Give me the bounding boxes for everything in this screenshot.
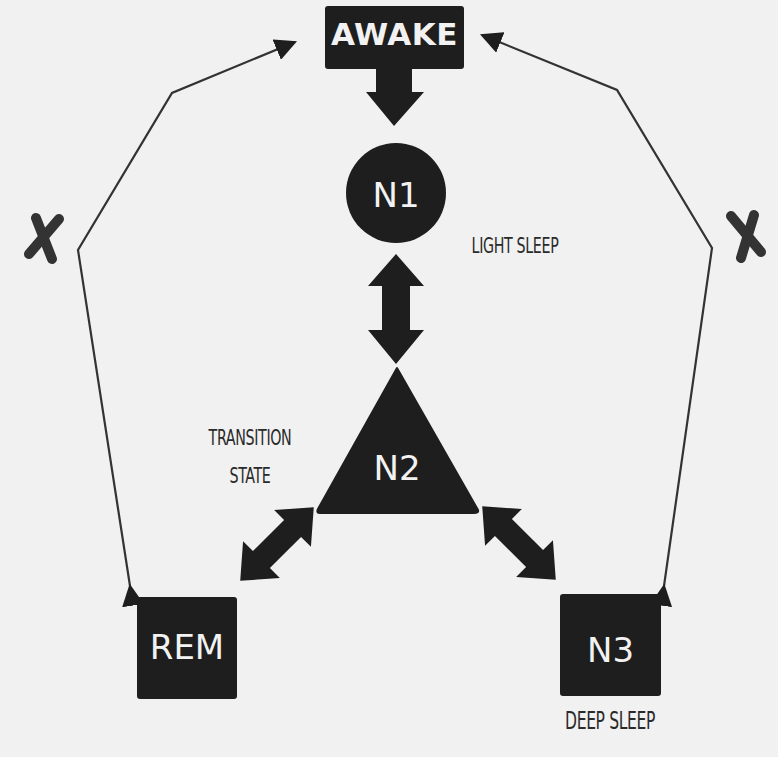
- light-sleep-annotation: LIGHT SLEEP: [461, 233, 569, 258]
- transition-state-annotation-line1: TRANSITION: [200, 425, 301, 450]
- n2-rem-arrow: [222, 489, 332, 599]
- awake-n1-arrow: [366, 69, 424, 126]
- transition-state-annotation-line2: STATE: [200, 463, 301, 488]
- awake-n3-line: [482, 35, 712, 586]
- n2-n3-arrow: [464, 488, 574, 598]
- n1-label: N1: [346, 175, 446, 215]
- deep-sleep-annotation: DEEP SLEEP: [552, 708, 667, 736]
- right-x-mark-icon: [731, 215, 761, 258]
- awake-rem-connector: [78, 42, 295, 586]
- awake-rem-line: [78, 42, 295, 586]
- n1-n2-arrow: [368, 254, 424, 364]
- n2-node: [317, 368, 478, 513]
- sleep-stage-diagram: [0, 0, 778, 757]
- awake-n3-connector: [482, 35, 712, 586]
- awake-label: AWAKE: [325, 16, 464, 52]
- rem-label: REM: [137, 627, 237, 667]
- left-x-mark-icon: [29, 218, 59, 259]
- n3-label: N3: [560, 630, 661, 670]
- n2-label: N2: [347, 448, 447, 488]
